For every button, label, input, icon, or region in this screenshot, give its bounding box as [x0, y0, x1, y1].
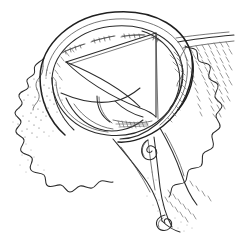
engraving-figure: [0, 0, 235, 235]
engraving-canvas: [0, 0, 235, 235]
